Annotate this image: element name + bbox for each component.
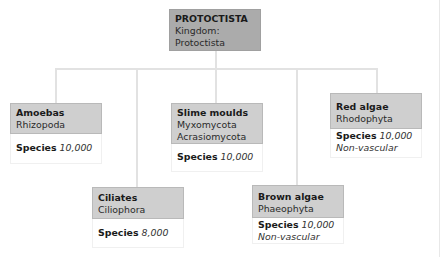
species-label: Species <box>258 219 299 230</box>
node-header: Red algae Rhodophyta <box>330 93 422 129</box>
connector-ciliates <box>136 68 138 188</box>
node-phylum: Rhizopoda <box>16 119 96 131</box>
connector-red-algae <box>376 68 378 93</box>
vascular-note: Non-vascular <box>258 231 338 243</box>
species-label: Species <box>177 151 218 162</box>
node-amoebas: Amoebas Rhizopoda Species 10,000 <box>10 103 102 164</box>
node-body: Species 8,000 <box>92 219 184 248</box>
species-count: 8,000 <box>142 227 169 238</box>
root-title: PROTOCTISTA <box>175 13 255 25</box>
root-rank: Kingdom: <box>175 25 255 37</box>
node-body: Species 10,000 Non-vascular <box>252 218 344 244</box>
node-header: Brown algae Phaeophyta <box>252 185 344 218</box>
frame-edge <box>439 0 440 257</box>
connector-slime-moulds <box>215 68 217 104</box>
node-red-algae: Red algae Rhodophyta Species 10,000 Non-… <box>330 93 422 158</box>
node-header: Ciliates Ciliophora <box>92 187 184 219</box>
species-count: 10,000 <box>221 151 254 162</box>
node-title: Amoebas <box>16 107 96 119</box>
species-count: 10,000 <box>60 142 93 153</box>
node-title: Red algae <box>336 101 416 113</box>
root-name: Protoctista <box>175 37 255 49</box>
species-count: 10,000 <box>302 219 335 230</box>
node-title: Slime moulds <box>177 107 257 119</box>
node-header: Slime moulds Myxomycota Acrasiomycota <box>171 103 263 144</box>
vascular-note: Non-vascular <box>336 142 416 154</box>
node-phylum: Ciliophora <box>98 204 178 216</box>
node-phylum: Myxomycota <box>177 119 257 131</box>
connector-amoebas <box>55 68 57 104</box>
node-ciliates: Ciliates Ciliophora Species 8,000 <box>92 187 184 248</box>
node-phylum: Phaeophyta <box>258 203 338 215</box>
node-phylum: Rhodophyta <box>336 113 416 125</box>
connector-root-down <box>215 50 217 70</box>
species-label: Species <box>98 227 139 238</box>
node-slime-moulds: Slime moulds Myxomycota Acrasiomycota Sp… <box>171 103 263 172</box>
root-header: PROTOCTISTA Kingdom: Protoctista <box>169 9 261 51</box>
node-brown-algae: Brown algae Phaeophyta Species 10,000 No… <box>252 185 344 244</box>
species-count: 10,000 <box>380 130 413 141</box>
root-node: PROTOCTISTA Kingdom: Protoctista <box>169 9 261 51</box>
species-label: Species <box>336 130 377 141</box>
node-title: Ciliates <box>98 192 178 204</box>
node-title: Brown algae <box>258 191 338 203</box>
node-body: Species 10,000 Non-vascular <box>330 129 422 158</box>
node-body: Species 10,000 <box>10 134 102 164</box>
species-label: Species <box>16 142 57 153</box>
node-phylum: Acrasiomycota <box>177 131 257 143</box>
node-header: Amoebas Rhizopoda <box>10 103 102 134</box>
connector-brown-algae <box>296 68 298 186</box>
node-body: Species 10,000 <box>171 144 263 172</box>
